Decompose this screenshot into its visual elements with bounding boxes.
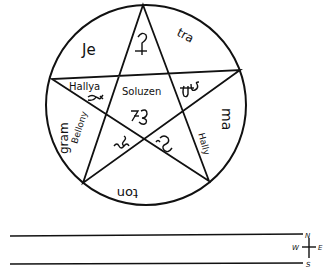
sigil-lower-left-icon xyxy=(114,136,129,148)
compass-e: E xyxy=(318,244,323,252)
sigil-left-icon xyxy=(88,95,103,100)
label-je: Je xyxy=(81,41,96,59)
name-bellony: Bellony xyxy=(69,109,89,144)
sigil-lower-right-icon xyxy=(156,136,172,152)
compass-s: S xyxy=(306,261,311,269)
upper-line xyxy=(10,234,303,236)
label-ton: ton xyxy=(117,186,138,201)
pentagram-diagram: Je tra ma ton gram Hallya Soluzen Bellon… xyxy=(0,0,326,278)
sigil-center-icon xyxy=(131,110,147,124)
name-hallya: Hallya xyxy=(69,81,100,92)
name-soluzen: Soluzen xyxy=(122,86,161,97)
compass-n: N xyxy=(305,232,311,240)
sigil-top-icon xyxy=(135,33,147,55)
lower-line xyxy=(10,263,303,264)
label-ma: ma xyxy=(219,108,235,130)
compass-w: W xyxy=(292,244,300,252)
label-gram: gram xyxy=(57,122,71,154)
sigil-right-icon xyxy=(180,82,199,97)
label-tra: tra xyxy=(175,25,197,45)
